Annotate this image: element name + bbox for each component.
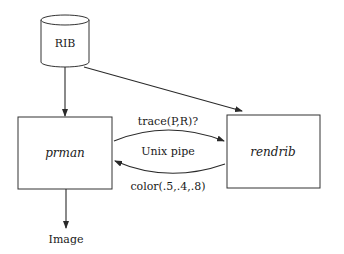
rib-database-icon: RIB [41, 15, 89, 67]
pipe-label: Unix pipe [141, 145, 195, 158]
prman-node: prman [18, 117, 112, 189]
prman-label: prman [45, 146, 85, 160]
rendrib-label: rendrib [250, 145, 296, 159]
diagram-canvas: RIB prman rendrib trace(P,R)? Unix pipe … [0, 0, 344, 254]
image-label: Image [49, 233, 84, 246]
request-arrow [114, 130, 224, 141]
response-label: color(.5,.4,.8) [130, 180, 205, 193]
rib-label: RIB [55, 37, 76, 50]
rib-to-rendrib-arrow [84, 67, 242, 111]
rendrib-node: rendrib [227, 115, 320, 188]
request-label: trace(P,R)? [138, 115, 198, 128]
response-arrow [115, 161, 225, 173]
